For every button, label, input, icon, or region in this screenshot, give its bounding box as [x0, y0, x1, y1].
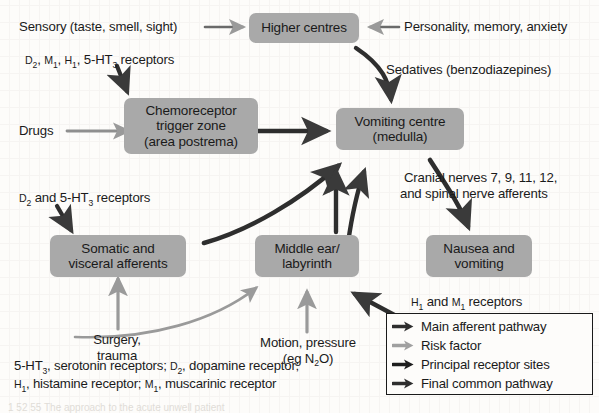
footnote-line1: 5-HT3, serotonin receptors; D2, dopamine…	[14, 357, 376, 375]
arrow-somatic-to-vomiting	[204, 166, 338, 243]
arrow-right-icon	[392, 320, 415, 333]
legend-label: Final common pathway	[421, 376, 553, 391]
node-vomiting-centre-line1: Vomiting centre	[342, 114, 458, 130]
label-cranial-nerves-line1: Cranial nerves 7, 9, 11, 12,	[404, 170, 557, 186]
node-vomiting-centre[interactable]: Vomiting centre (medulla)	[336, 108, 464, 150]
legend-label: Risk factor	[421, 338, 481, 353]
label-motion-line1: Motion, pressure	[238, 335, 378, 351]
legend-item: Final common pathway	[392, 374, 588, 393]
node-somatic-visceral-afferents[interactable]: Somatic and visceral afferents	[50, 235, 186, 277]
receptors-nausea: H1 and M1 receptors	[411, 294, 522, 310]
node-nausea-line1: Nausea and	[432, 241, 526, 257]
receptors-ctz: D2 and 5-HT3 receptors	[19, 190, 150, 206]
legend-item: Risk factor	[392, 336, 588, 355]
node-middle-ear-labyrinth[interactable]: Middle ear/ labyrinth	[255, 235, 359, 277]
receptors-top-of-diagram: D2, M1, H1, 5-HT3 receptors	[25, 52, 174, 68]
arrow-ctzrecep-to-somatic	[57, 206, 71, 230]
legend-label: Principal receptor sites	[421, 357, 550, 372]
label-personality: Personality, memory, anxiety	[404, 19, 567, 35]
label-surgery-line1: Surgery,	[64, 332, 170, 348]
arrow-right-icon	[392, 339, 415, 352]
node-middle-ear-line2: labyrinth	[261, 256, 353, 272]
arrow-right-icon	[392, 377, 415, 390]
legend-label: Main afferent pathway	[421, 319, 546, 334]
legend-item: Principal receptor sites	[392, 355, 588, 374]
arrow-toprecep-to-ctz	[117, 66, 127, 91]
legend-box: Main afferent pathway Risk factor Princi…	[386, 313, 593, 395]
node-somatic-line2: visceral afferents	[56, 256, 180, 272]
arrow-middleear-to-vomiting	[348, 172, 364, 243]
node-ctz-line2: trigger zone	[130, 118, 252, 134]
node-higher-centres-label: Higher centres	[255, 20, 353, 36]
node-higher-centres[interactable]: Higher centres	[249, 13, 359, 43]
node-vomiting-centre-line2: (medulla)	[342, 129, 458, 145]
label-cranial-nerves-line2: and spinal nerve afferents	[400, 186, 548, 202]
page-caption-bleed: 1 52 55 The approach to the acute unwell…	[8, 402, 225, 413]
diagram-canvas: Higher centres Chemoreceptor trigger zon…	[0, 0, 599, 413]
node-somatic-line1: Somatic and	[56, 241, 180, 257]
arrow-right-icon	[392, 358, 415, 371]
legend-item: Main afferent pathway	[392, 317, 588, 336]
node-ctz-line1: Chemoreceptor	[130, 103, 252, 119]
node-chemoreceptor-trigger-zone[interactable]: Chemoreceptor trigger zone (area postrem…	[124, 98, 258, 154]
label-drugs: Drugs	[19, 123, 53, 139]
arrow-surgerycurve-to-middleear	[75, 288, 256, 337]
footnote-line2: H1, histamine receptor; M1, muscarinic r…	[14, 375, 376, 393]
label-sedatives: Sedatives (benzodiazepines)	[386, 62, 551, 78]
node-nausea-and-vomiting[interactable]: Nausea and vomiting	[426, 235, 532, 277]
footnote-abbreviations: 5-HT3, serotonin receptors; D2, dopamine…	[14, 357, 376, 393]
node-middle-ear-line1: Middle ear/	[261, 241, 353, 257]
node-ctz-line3: (area postrema)	[130, 134, 252, 150]
label-sensory: Sensory (taste, smell, sight)	[19, 19, 177, 35]
node-nausea-line2: vomiting	[432, 256, 526, 272]
